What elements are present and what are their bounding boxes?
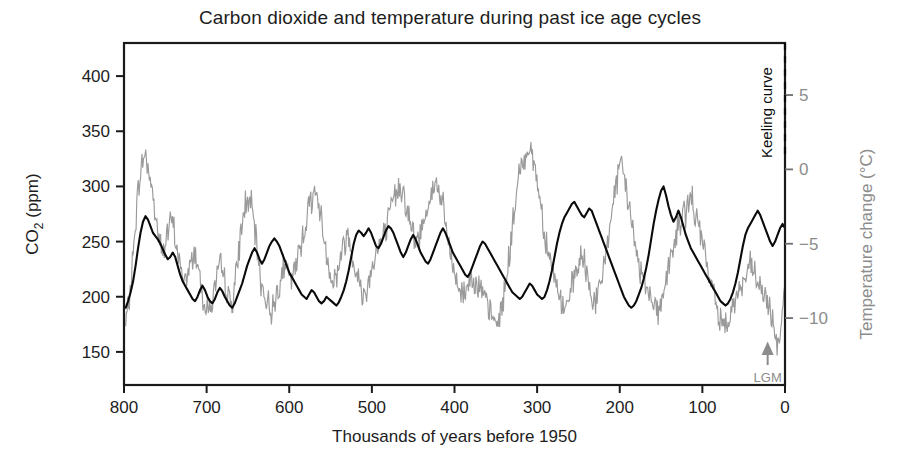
y-tick-label-left: 350 <box>82 122 110 141</box>
chart-canvas: 8007006005004003002001000150200250300350… <box>0 0 900 452</box>
y-tick-label-left: 200 <box>82 288 110 307</box>
x-tick-label: 100 <box>688 398 716 417</box>
x-tick-label: 800 <box>110 398 138 417</box>
keeling-curve-label: Keeling curve <box>758 67 775 158</box>
y-tick-label-right: 0 <box>799 160 808 179</box>
y-axis-label-left: CO2 (ppm) <box>23 173 46 254</box>
x-tick-label: 400 <box>440 398 468 417</box>
y-tick-label-left: 150 <box>82 343 110 362</box>
lgm-label: LGM <box>754 370 782 385</box>
y-tick-label-left: 250 <box>82 233 110 252</box>
x-tick-label: 300 <box>523 398 551 417</box>
ticks-layer: 8007006005004003002001000150200250300350… <box>82 67 828 417</box>
figure-container: Carbon dioxide and temperature during pa… <box>0 0 900 452</box>
x-tick-label: 500 <box>358 398 386 417</box>
y-tick-label-left: 300 <box>82 177 110 196</box>
curves-layer <box>126 142 785 355</box>
temperature-curve <box>126 142 785 355</box>
co2-curve <box>126 186 785 307</box>
y-tick-label-right: −5 <box>799 235 818 254</box>
x-axis-label: Thousands of years before 1950 <box>332 427 577 446</box>
y-axis-label-right: Temperature change (°C) <box>857 148 876 339</box>
x-tick-label: 700 <box>192 398 220 417</box>
x-tick-label: 200 <box>606 398 634 417</box>
x-tick-label: 0 <box>780 398 789 417</box>
x-tick-label: 600 <box>275 398 303 417</box>
y-tick-label-right: 5 <box>799 86 808 105</box>
lgm-arrowhead-icon <box>763 344 772 354</box>
y-tick-label-left: 400 <box>82 67 110 86</box>
y-tick-label-right: −10 <box>799 309 828 328</box>
